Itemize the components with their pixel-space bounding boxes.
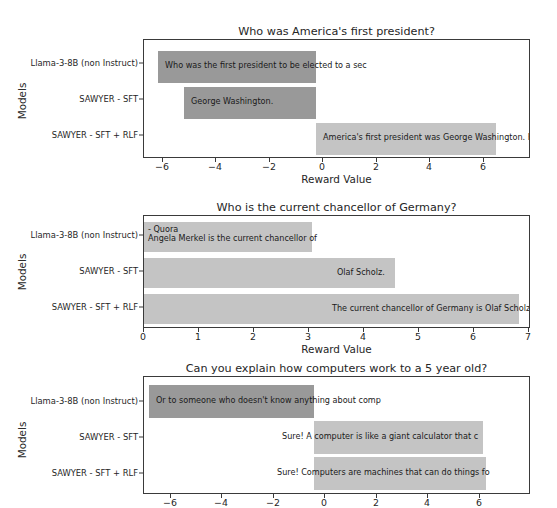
- chart-title: Can you explain how computers work to a …: [143, 362, 530, 375]
- x-tick-label: 7: [525, 331, 531, 342]
- x-tick-label: 2: [373, 161, 379, 172]
- bar-label-llama: Or to someone who doesn't know anything …: [156, 396, 381, 405]
- y-tick-label-llama: Llama-3-8B (non Instruct): [30, 396, 143, 406]
- x-tick-label: 3: [305, 331, 311, 342]
- x-tick-label: 1: [195, 331, 201, 342]
- bar-label-sft-rlf: Sure! Computers are machines that can do…: [277, 468, 490, 477]
- x-axis-title: Reward Value: [143, 343, 530, 355]
- x-tick-label: 5: [415, 331, 421, 342]
- y-tick-label-sft: SAWYER - SFT: [79, 432, 143, 442]
- chart-panel-3: Can you explain how computers work to a …: [0, 358, 557, 505]
- bar-label-sft: Sure! A computer is like a giant calcula…: [282, 432, 478, 441]
- y-axis-title: Models: [16, 242, 28, 302]
- bar-label-llama: - Quora Angela Merkel is the current cha…: [148, 225, 317, 244]
- x-tick-label: 0: [140, 331, 146, 342]
- x-tick-label: 6: [480, 161, 486, 172]
- chart-title: Who was America's first president?: [143, 25, 530, 38]
- x-tick-label: −4: [214, 497, 228, 508]
- plot-area: - Quora Angela Merkel is the current cha…: [143, 215, 530, 328]
- bar-label-sft-rlf: The current chancellor of Germany is Ola…: [332, 304, 530, 313]
- x-axis-title: Reward Value: [143, 173, 530, 185]
- y-tick-label-sft-rlf: SAWYER - SFT + RLF: [52, 130, 143, 140]
- bar-label-sft-rlf: America's first president was George Was…: [323, 133, 530, 142]
- x-tick-label: 0: [321, 497, 327, 508]
- x-tick-label: −6: [163, 497, 177, 508]
- y-tick-label-sft: SAWYER - SFT: [79, 266, 143, 276]
- plot-area: Who was the first president to be electe…: [143, 39, 530, 158]
- x-tick-label: 6: [470, 331, 476, 342]
- chart-title: Who is the current chancellor of Germany…: [143, 201, 530, 214]
- x-tick-label: 0: [319, 161, 325, 172]
- y-tick-label-sft-rlf: SAWYER - SFT + RLF: [52, 302, 143, 312]
- y-tick-label-llama: Llama-3-8B (non Instruct): [30, 58, 143, 68]
- bar-label-sft: George Washington.: [191, 97, 273, 106]
- x-tick-label: −2: [266, 497, 280, 508]
- y-axis-title: Models: [16, 410, 28, 470]
- x-tick-label: −2: [262, 161, 276, 172]
- chart-panel-2: Who is the current chancellor of Germany…: [0, 186, 557, 358]
- y-tick-label-sft: SAWYER - SFT: [79, 94, 143, 104]
- x-tick-label: 2: [250, 331, 256, 342]
- x-tick-label: 4: [426, 161, 432, 172]
- x-tick-label: −4: [208, 161, 222, 172]
- y-axis-title: Models: [16, 71, 28, 131]
- y-tick-label-llama: Llama-3-8B (non Instruct): [30, 230, 143, 240]
- x-tick-label: 4: [360, 331, 366, 342]
- x-tick-label: 4: [424, 497, 430, 508]
- chart-panel-1: Who was America's first president? Model…: [0, 0, 557, 186]
- x-tick-label: 6: [476, 497, 482, 508]
- bar-label-llama: Who was the first president to be electe…: [165, 61, 367, 70]
- x-tick-label: −6: [155, 161, 169, 172]
- y-tick-label-sft-rlf: SAWYER - SFT + RLF: [52, 468, 143, 478]
- bar-label-sft: Olaf Scholz.: [337, 268, 385, 277]
- plot-area: Or to someone who doesn't know anything …: [143, 376, 530, 494]
- x-tick-label: 2: [373, 497, 379, 508]
